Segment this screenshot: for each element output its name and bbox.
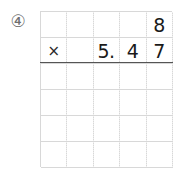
grid-row	[41, 142, 173, 168]
grid-cell-r3c1[interactable]	[41, 64, 67, 90]
grid-cell-r5c4[interactable]	[120, 116, 146, 142]
grid-cell-r1c3[interactable]	[94, 12, 120, 38]
grid-cell-r2c4[interactable]: 4	[120, 38, 146, 64]
grid-cell-r5c3[interactable]	[94, 116, 120, 142]
grid-cell-r5c2[interactable]	[67, 116, 93, 142]
grid-cell-r5c5[interactable]	[147, 116, 173, 142]
multiplier-digit-ones: 5.	[94, 38, 119, 64]
multiplier-digit-hundredths: 7	[147, 38, 172, 64]
grid-row: × 5. 4 7	[41, 38, 173, 64]
multiplicand-digit: 8	[147, 12, 172, 38]
grid-cell-r6c2[interactable]	[67, 142, 93, 168]
multiply-operator-icon: ×	[41, 38, 66, 64]
grid-cell-r2c5[interactable]: 7	[147, 38, 173, 64]
grid-cell-r6c5[interactable]	[147, 142, 173, 168]
grid-cell-r3c5[interactable]	[147, 64, 173, 90]
calculation-grid: 8 × 5. 4 7	[40, 11, 172, 167]
grid-row	[41, 116, 173, 142]
grid-cell-r6c1[interactable]	[41, 142, 67, 168]
grid-row	[41, 64, 173, 90]
grid-row: 8	[41, 12, 173, 38]
grid-cell-r2c3[interactable]: 5.	[94, 38, 120, 64]
grid-cell-r6c3[interactable]	[94, 142, 120, 168]
grid-cell-r4c1[interactable]	[41, 90, 67, 116]
grid-cell-r2c1[interactable]: ×	[41, 38, 67, 64]
grid-cell-r1c5[interactable]: 8	[147, 12, 173, 38]
grid-cell-r3c4[interactable]	[120, 64, 146, 90]
grid-row	[41, 90, 173, 116]
grid-cell-r3c3[interactable]	[94, 64, 120, 90]
grid-cell-r3c2[interactable]	[67, 64, 93, 90]
grid-cell-r1c4[interactable]	[120, 12, 146, 38]
grid-cell-r4c5[interactable]	[147, 90, 173, 116]
grid-cell-r4c2[interactable]	[67, 90, 93, 116]
answer-rule-divider	[40, 62, 173, 63]
grid-cell-r4c4[interactable]	[120, 90, 146, 116]
grid-cell-r2c2[interactable]	[67, 38, 93, 64]
grid-cell-r4c3[interactable]	[94, 90, 120, 116]
grid-cell-r1c2[interactable]	[67, 12, 93, 38]
problem-number-badge: ④	[7, 10, 29, 32]
grid-cell-r1c1[interactable]	[41, 12, 67, 38]
grid-cell-r6c4[interactable]	[120, 142, 146, 168]
grid-cell-r5c1[interactable]	[41, 116, 67, 142]
worksheet-problem: ④ 8 ×	[0, 0, 181, 173]
multiplier-digit-tenths: 4	[120, 38, 145, 64]
